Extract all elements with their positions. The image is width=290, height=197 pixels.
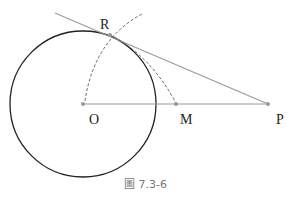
label-o: O xyxy=(89,112,99,127)
point-m xyxy=(174,102,178,106)
geometry-diagram: R O M P 圖 7.3-6 xyxy=(0,0,290,197)
dashed-arc-to-m xyxy=(110,35,176,103)
point-o xyxy=(81,102,85,106)
point-p xyxy=(266,102,270,106)
label-r: R xyxy=(100,17,110,32)
point-r xyxy=(108,33,112,37)
label-p: P xyxy=(276,112,284,127)
figure-caption: 圖 7.3-6 xyxy=(124,178,167,191)
label-m: M xyxy=(180,112,193,127)
dashed-arc-from-o xyxy=(85,14,142,101)
